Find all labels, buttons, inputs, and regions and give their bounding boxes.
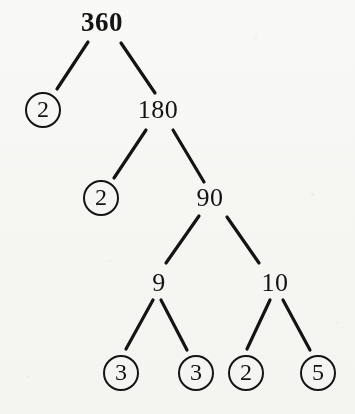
- prime-factor-node: 2: [25, 92, 61, 128]
- tree-edge: [126, 300, 153, 349]
- node-label: 90: [197, 185, 224, 211]
- node-label: 9: [152, 270, 166, 296]
- composite-node: 90: [197, 185, 224, 211]
- tree-edge: [173, 130, 204, 182]
- node-label: 3: [190, 360, 202, 384]
- prime-factor-node: 3: [103, 355, 139, 391]
- tree-edge: [283, 300, 310, 350]
- composite-node: 9: [152, 270, 166, 296]
- node-label: 5: [312, 360, 324, 384]
- tree-edge: [121, 43, 155, 93]
- tree-edge: [247, 300, 270, 349]
- composite-node: 10: [262, 270, 289, 296]
- prime-factor-node: 5: [300, 355, 336, 391]
- tree-edge: [114, 130, 146, 178]
- tree-edge-layer: [0, 0, 355, 414]
- tree-edge: [57, 42, 88, 89]
- node-label: 2: [95, 185, 107, 209]
- node-label: 10: [262, 270, 289, 296]
- node-label: 2: [37, 97, 49, 121]
- node-label: 360: [81, 9, 123, 36]
- prime-factor-node: 3: [178, 355, 214, 391]
- tree-edge: [166, 216, 199, 263]
- node-label: 3: [115, 360, 127, 384]
- node-label: 2: [240, 360, 252, 384]
- root-node: 360: [81, 9, 123, 36]
- prime-factor-node: 2: [83, 180, 119, 216]
- tree-edge: [161, 300, 187, 350]
- tree-edge: [227, 217, 259, 263]
- factor-tree-diagram: 36021802909103325: [0, 0, 355, 414]
- composite-node: 180: [138, 97, 179, 123]
- prime-factor-node: 2: [228, 355, 264, 391]
- node-label: 180: [138, 97, 179, 123]
